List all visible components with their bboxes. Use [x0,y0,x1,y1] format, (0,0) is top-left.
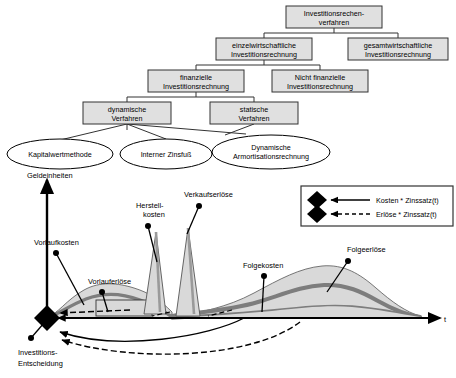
tree-node-root[interactable]: Investitionsrechen- verfahren [286,6,382,28]
tree-node-einzel-line1: einzelwirtschaftliche [232,41,296,50]
tree-node-stat-line1: statische [240,105,268,114]
chart-spike-verkaufserloese [176,228,200,316]
tree-leaf-kapitalwertmethode[interactable]: Kapitalwertmethode [7,139,113,169]
tree-node-nichtfin-line1: Nicht finanzielle [295,73,345,82]
legend-kosten-label: Kosten * Zinssatz(t) [376,196,439,205]
tree-node-nichtfin-line2: Investitionsrechnung [287,82,353,91]
callout-verkaufserloese: Verkaufserlöse [184,190,233,234]
chart-spike-herstellkosten [144,232,166,314]
tree-leaf-interner-zinsfuss[interactable]: Interner Zinsfuß [120,139,212,169]
leaf-dar-line1: Dynamische [251,143,291,152]
diagram-canvas: Investitionsrechen- verfahren einzelwirt… [0,0,456,378]
callout-herstellkosten-line1: Herstell- [136,201,164,210]
tree-node-statische-verfahren[interactable]: statische Verfahren [210,102,298,124]
callout-verkaufserloese-label: Verkaufserlöse [184,190,233,199]
y-axis-label: Geldeinheiten [27,171,73,180]
tree-node-dyn-line1: dynamische [108,105,146,114]
callout-vorlauferloese-label: Vorlauferlöse [88,277,131,286]
tree-node-finanz-line2: Investitionsrechnung [163,82,229,91]
tree-node-root-line1: Investitionsrechen- [304,9,365,18]
tree-node-finanzielle[interactable]: finanzielle Investitionsrechnung [148,70,244,92]
tree-node-finanz-line1: finanzielle [180,73,212,82]
tree-node-gesamt-line2: Investitionsrechnung [365,50,431,59]
tree-node-gesamt-line1: gesamtwirtschaftliche [364,41,433,50]
callout-folgekosten-label: Folgekosten [243,261,283,270]
leaf-interner-zinsfuss-label: Interner Zinsfuß [141,150,192,159]
tree-node-nicht-finanzielle[interactable]: Nicht finanzielle Investitionsrechnung [272,70,368,92]
callout-vorlaufkosten-label: Vorlaufkosten [34,238,79,247]
tree-node-dynamische-verfahren[interactable]: dynamische Verfahren [83,102,171,124]
callout-herstellkosten-line2: kosten [143,210,165,219]
legend-box: Kosten * Zinssatz(t) Erlöse * Zinssatz(t… [301,186,453,226]
tree-node-einzelwirtschaftliche[interactable]: einzelwirtschaftliche Investitionsrechnu… [216,38,312,60]
callout-herstellkosten: Herstell- kosten [136,201,165,262]
tree-node-gesamtwirtschaftliche[interactable]: gesamtwirtschaftliche Investitionsrechnu… [348,38,448,60]
chart-curve-folge [172,266,420,318]
leaf-kapitalwertmethode-label: Kapitalwertmethode [28,150,92,159]
tree-node-einzel-line2: Investitionsrechnung [231,50,297,59]
origin-label-line1: Investitions- [18,348,58,357]
tree-node-stat-line2: Verfahren [238,114,269,123]
tree-node-root-line2: verfahren [319,18,349,27]
origin-diamond-marker [34,305,60,331]
x-axis-label: t [444,315,446,324]
tree-node-dyn-line2: Verfahren [111,114,142,123]
callout-folgeerloese-label: Folgeerlöse [347,245,386,254]
legend-erloese-label: Erlöse * Zinssatz(t) [376,210,437,219]
callout-investitions-entscheidung: Investitions- Entscheidung [18,323,63,368]
origin-label-line2: Entscheidung [18,359,63,368]
leaf-dar-line2: Armortisationsrechnung [233,152,309,161]
tree-leaf-dynamische-armortisationsrechnung[interactable]: Dynamische Armortisationsrechnung [212,135,330,169]
